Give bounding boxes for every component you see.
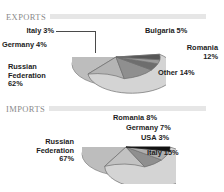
leader-line-italy-vertical [95, 31, 96, 53]
section-header-exports: EXPORTS [6, 11, 206, 22]
pie-label-germany-imports: Germany 7% [126, 124, 206, 133]
pie-label-italy-exports: Italy 3% [4, 27, 54, 36]
pie-label-romania-imports: Romania 8% [113, 114, 193, 123]
chart-page: EXPORTS [0, 0, 224, 192]
pie-label-russia-imports: Russian Federation 67% [6, 138, 74, 164]
pie-label-bulgaria-exports: Bulgaria 5% [145, 27, 215, 36]
pie-label-germany-exports: Germany 4% [2, 41, 64, 50]
header-rule-imports [49, 106, 206, 111]
section-title-exports: EXPORTS [6, 12, 50, 22]
pie-graphic-exports [66, 26, 166, 94]
pie-label-italy-imports: Italy 15% [147, 149, 219, 158]
pie-label-usa-imports: USA 3% [141, 134, 211, 143]
header-rule-exports [50, 14, 206, 19]
leader-line-italy-horizontal [56, 31, 96, 32]
pie-label-other-exports: Other 14% [158, 69, 220, 78]
pie-svg-exports [66, 26, 166, 94]
pie-label-romania-exports: Romania 12% [152, 44, 218, 61]
pie-chart-imports: Russian Federation 67% Romania 8% German… [0, 112, 224, 190]
pie-label-russia-exports: Russian Federation 62% [8, 63, 66, 89]
pie-chart-exports: Italy 3% Germany 4% Russian Federation 6… [0, 22, 224, 100]
